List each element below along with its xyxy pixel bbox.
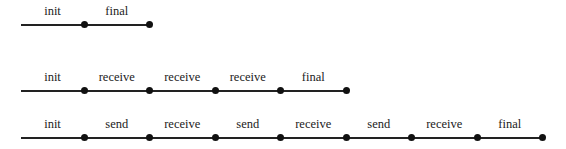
- state-node-dot: [81, 87, 88, 94]
- state-node-dot: [539, 134, 546, 141]
- state-node-dot: [146, 21, 153, 28]
- state-node-dot: [277, 134, 284, 141]
- segment-label: receive: [280, 117, 346, 131]
- timeline-row-3: initsendreceivesendreceivesendreceivefin…: [0, 117, 566, 147]
- segment-label: receive: [84, 70, 150, 84]
- state-node-dot: [277, 87, 284, 94]
- state-node-dot: [343, 134, 350, 141]
- segment-label: init: [20, 117, 86, 131]
- state-node-dot: [343, 87, 350, 94]
- segment-label: init: [20, 4, 86, 18]
- segment-label: final: [280, 70, 346, 84]
- segment-label: init: [20, 70, 86, 84]
- timeline-row-1: initfinal: [0, 4, 566, 34]
- timeline-row-2: initreceivereceivereceivefinal: [0, 70, 566, 100]
- state-node-dot: [146, 134, 153, 141]
- segment-label: final: [477, 117, 543, 131]
- state-node-dot: [474, 134, 481, 141]
- state-node-dot: [212, 134, 219, 141]
- segment-label: send: [84, 117, 150, 131]
- state-node-dot: [212, 87, 219, 94]
- segment-label: final: [84, 4, 150, 18]
- segment-label: send: [346, 117, 412, 131]
- state-node-dot: [146, 87, 153, 94]
- segment-label: receive: [149, 117, 215, 131]
- segment-label: send: [215, 117, 281, 131]
- timeline-line: [21, 90, 346, 92]
- segment-label: receive: [411, 117, 477, 131]
- state-node-dot: [81, 21, 88, 28]
- segment-label: receive: [215, 70, 281, 84]
- state-node-dot: [81, 134, 88, 141]
- state-node-dot: [408, 134, 415, 141]
- segment-label: receive: [149, 70, 215, 84]
